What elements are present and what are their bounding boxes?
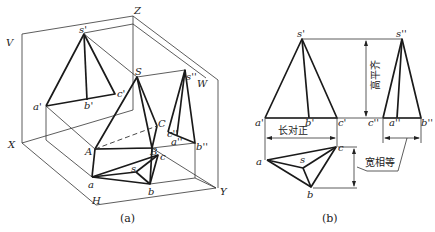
caption-a: (a) [120,212,135,225]
label-axis-z: Z [133,5,142,16]
label-c: c [160,151,166,162]
label-s-prime: s' [79,24,87,35]
figure-a: V Z W X H Y s' a' b' c' S s'' C c'' a'' … [6,5,228,225]
label-c-b: c [338,142,344,153]
label-plane-v: V [6,37,15,48]
label-s-prime-b: s' [297,28,305,39]
figure-b: s' s'' a' b' c' c'' a'' b'' a s c b 长对正 … [255,28,433,225]
side-view [383,39,421,118]
label-axis-y: Y [220,186,228,197]
label-a-prime: a' [33,101,42,112]
label-c-prime-b: c' [338,117,346,128]
h-plane [22,106,216,205]
label-C: C [158,118,166,129]
label-b-b: b [307,189,313,200]
label-plane-w: W [197,78,208,89]
label-b-double-prime-b: b'' [421,117,433,128]
label-a-b: a [256,156,262,167]
label-s-double-prime-b: s'' [396,28,407,39]
label-axis-x: X [7,139,16,150]
label-S: S [135,66,142,77]
label-s-b: s [300,154,305,165]
label-b: b [148,186,154,197]
label-A: A [84,146,92,157]
caption-b: (b) [322,212,338,225]
label-plane-h: H [91,195,101,206]
label-a-double-prime-b: a'' [389,117,400,128]
label-s: s [131,163,136,174]
rule-length-aligned: 长对正 [278,124,308,136]
v-plane [22,16,133,143]
label-a-double-prime: a'' [171,136,182,147]
rule-height-level: 高平齐 [369,60,381,90]
label-b-prime: b' [84,100,93,111]
label-c-prime: c' [117,88,125,99]
label-B: B [149,146,157,157]
label-b-double-prime: b'' [196,141,208,152]
label-a-prime-b: a' [255,117,264,128]
front-view [265,39,337,118]
h-projection-triangle [92,148,158,184]
label-a: a [88,179,94,190]
spatial-pyramid [95,77,157,149]
rule-width-equal: 宽相等 [365,156,395,168]
label-s-double-prime: s'' [186,71,197,82]
projection-diagram: V Z W X H Y s' a' b' c' S s'' C c'' a'' … [0,0,435,232]
top-view [267,147,336,187]
label-c-double-prime-b: c'' [368,117,379,128]
